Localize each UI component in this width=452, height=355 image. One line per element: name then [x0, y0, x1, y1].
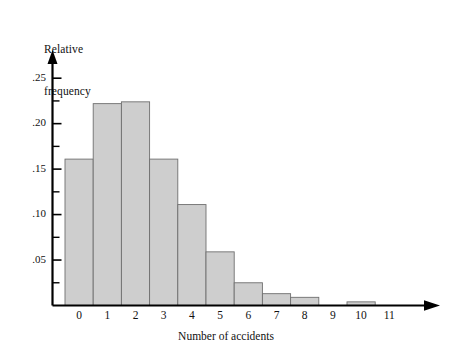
bars-group [65, 102, 375, 306]
y-tick-label-.10: .10 [20, 207, 46, 219]
x-tick-label-5: 5 [209, 309, 231, 321]
x-tick-label-0: 0 [68, 309, 90, 321]
y-tick-label-.25: .25 [20, 71, 46, 83]
x-tick-label-8: 8 [294, 309, 316, 321]
bar-3 [150, 159, 178, 305]
x-tick-label-2: 2 [125, 309, 147, 321]
chart-canvas [0, 0, 452, 355]
x-axis-title: Number of accidents [0, 330, 452, 342]
bar-0 [65, 159, 93, 305]
y-tick-label-.15: .15 [20, 162, 46, 174]
x-tick-label-11: 11 [378, 309, 400, 321]
x-tick-label-4: 4 [181, 309, 203, 321]
bar-5 [206, 252, 234, 306]
bar-4 [178, 205, 206, 306]
ticks-group [53, 78, 62, 283]
x-tick-label-6: 6 [237, 309, 259, 321]
y-tick-label-.20: .20 [20, 116, 46, 128]
y-tick-label-.05: .05 [20, 253, 46, 265]
bar-8 [291, 297, 319, 305]
x-tick-label-10: 10 [350, 309, 372, 321]
x-tick-label-3: 3 [153, 309, 175, 321]
x-axis-arrow-icon [424, 300, 440, 311]
bar-6 [234, 283, 262, 306]
x-tick-label-9: 9 [322, 309, 344, 321]
y-axis-arrow-icon [48, 50, 58, 64]
bar-2 [121, 102, 149, 306]
x-tick-label-7: 7 [266, 309, 288, 321]
bar-1 [93, 104, 121, 306]
x-tick-label-1: 1 [96, 309, 118, 321]
bar-7 [262, 294, 290, 306]
histogram-figure: Relative frequency .05.10.15.20.25 01234… [0, 0, 452, 355]
